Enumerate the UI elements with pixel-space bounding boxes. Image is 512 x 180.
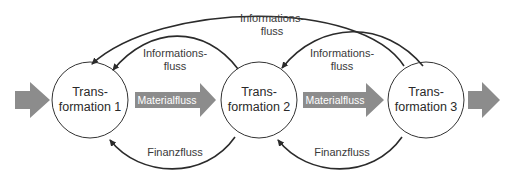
material-flow-label-2-3: Materialfluss bbox=[306, 93, 365, 107]
finance-flow-label-3-2: Finanzfluss bbox=[302, 146, 382, 159]
info-flow-label-3-2: Informations- fluss bbox=[302, 47, 382, 73]
material-arrow-output bbox=[468, 82, 500, 118]
info-flow-label-2-1: Informations- fluss bbox=[135, 47, 215, 73]
node-label-line2: formation 3 bbox=[395, 100, 458, 115]
node-label-line2: formation 2 bbox=[228, 100, 291, 115]
node-label-line1: Trans- bbox=[395, 85, 458, 100]
finance-flow-label-2-1: Finanzfluss bbox=[135, 146, 215, 159]
node-label-line1: Trans- bbox=[59, 85, 122, 100]
material-arrow-input bbox=[15, 82, 50, 118]
node-label-transformation-1: Trans- formation 1 bbox=[59, 85, 122, 115]
node-label-transformation-3: Trans- formation 3 bbox=[395, 85, 458, 115]
info-flow-label-3-1: Informations- fluss bbox=[232, 12, 312, 38]
node-label-line2: formation 1 bbox=[59, 100, 122, 115]
node-label-line1: Trans- bbox=[228, 85, 291, 100]
node-label-transformation-2: Trans- formation 2 bbox=[228, 85, 291, 115]
material-flow-label-1-2: Materialfluss bbox=[138, 93, 197, 107]
